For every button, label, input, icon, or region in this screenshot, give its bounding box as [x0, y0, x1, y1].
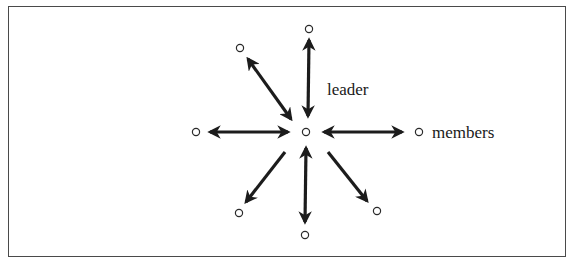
edge-top-double-arrow — [308, 40, 309, 116]
member-node-right — [415, 128, 422, 135]
member-node-top — [305, 25, 312, 32]
edge-bottom-left-arrow — [246, 152, 285, 202]
edge-top-left-double-arrow — [248, 59, 291, 119]
leader-label: leader — [327, 80, 369, 99]
member-node-bottom-left — [235, 209, 242, 216]
member-node-top-left — [236, 44, 243, 51]
members-label: members — [432, 123, 494, 142]
leader-node — [302, 128, 309, 135]
edge-bottom-double-arrow — [305, 148, 306, 222]
member-node-bottom-right — [373, 207, 380, 214]
edge-bottom-right-arrow — [328, 152, 367, 201]
member-node-bottom — [301, 231, 308, 238]
member-node-left — [192, 128, 199, 135]
wheel-network-diagram: leader members — [0, 0, 574, 265]
